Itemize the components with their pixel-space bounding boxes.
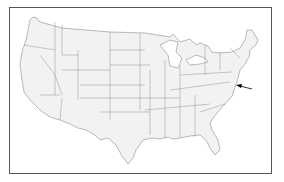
us-outline: [20, 17, 258, 164]
arrow-icon: [236, 84, 252, 89]
us-map: [0, 0, 284, 182]
